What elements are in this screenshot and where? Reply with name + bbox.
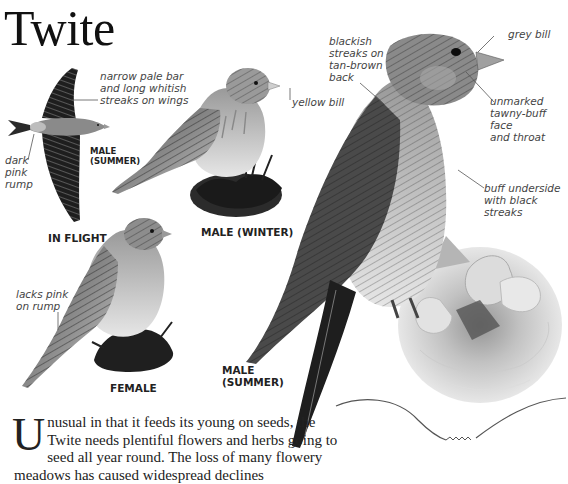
- annotation-yellow-bill: yellow bill: [292, 96, 344, 108]
- caption-male-winter: MALE (WINTER): [201, 226, 293, 238]
- annotation-wing-bar: narrow pale bar and long whitish streaks…: [100, 70, 188, 106]
- drop-cap: U: [12, 416, 45, 454]
- annotation-lacks-pink: lacks pink on rump: [16, 288, 68, 312]
- annotation-grey-bill: grey bill: [508, 28, 550, 40]
- annotation-buff-underside: buff underside with black streaks: [484, 182, 561, 218]
- body-paragraph: Unusual in that it feeds its young on se…: [14, 414, 344, 484]
- in-flight-sub-label: MALE (SUMMER): [90, 146, 140, 166]
- in-flight-bird-illustration: [8, 68, 110, 222]
- annotation-dark-pink-rump: dark pink rump: [5, 154, 33, 190]
- body-text: nusual in that it feeds its young on see…: [14, 414, 337, 483]
- caption-female: FEMALE: [110, 382, 157, 394]
- annotation-back-streaks: blackish streaks on tan-brown back: [329, 35, 384, 83]
- caption-male-summer: MALE (SUMMER): [222, 364, 284, 388]
- annotation-face-throat: unmarked tawny-buff face and throat: [490, 95, 568, 143]
- caption-in-flight: IN FLIGHT: [48, 232, 107, 244]
